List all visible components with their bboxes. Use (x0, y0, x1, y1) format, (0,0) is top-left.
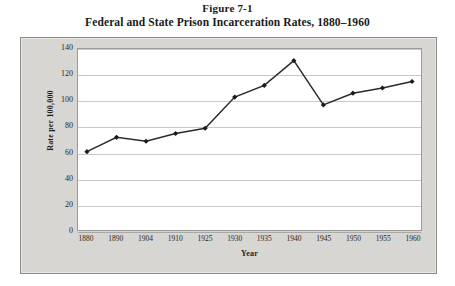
x-axis-tick-label: 1904 (138, 234, 153, 243)
x-axis-tick-label: 1880 (79, 234, 94, 243)
x-axis-tick-label: 1960 (406, 234, 421, 243)
data-point-marker (409, 79, 414, 84)
data-point-marker (350, 91, 355, 96)
y-axis-tick-label: 40 (39, 175, 73, 183)
x-axis-title: Year (77, 249, 422, 258)
x-axis-tick-label: 1890 (108, 234, 123, 243)
x-axis-tick-label: 1925 (197, 234, 212, 243)
data-point-marker (173, 131, 178, 136)
data-point-marker (380, 85, 385, 90)
data-point-marker (114, 135, 119, 140)
x-axis-tick-label: 1910 (168, 234, 183, 243)
y-axis-tick-label: 140 (39, 44, 73, 52)
x-axis-tick-label: 1955 (376, 234, 391, 243)
gridline (78, 232, 421, 233)
data-point-marker (84, 149, 89, 154)
series-line (87, 61, 412, 152)
x-axis-tick-label: 1945 (316, 234, 331, 243)
figure-caption: Federal and State Prison Incarceration R… (0, 15, 455, 29)
chart-frame: Rate per 100,000 140120100806040200 1880… (20, 37, 437, 274)
y-axis-tick-labels: 140120100806040200 (39, 48, 73, 231)
x-axis-tick-labels: 1880189019041910192519301935194019451950… (77, 234, 422, 248)
y-axis-tick-label: 100 (39, 96, 73, 104)
y-axis-tick-label: 0 (39, 227, 73, 235)
plot-area (77, 48, 422, 231)
line-series (78, 49, 421, 231)
figure-title-block: Figure 7-1 Federal and State Prison Inca… (0, 2, 455, 29)
y-axis-tick-label: 120 (39, 70, 73, 78)
x-axis-tick-label: 1930 (227, 234, 242, 243)
y-axis-tick-label: 80 (39, 122, 73, 130)
y-axis-tick-label: 60 (39, 149, 73, 157)
data-point-marker (143, 139, 148, 144)
x-axis-tick-label: 1950 (346, 234, 361, 243)
x-axis-tick-label: 1935 (257, 234, 272, 243)
figure-number: Figure 7-1 (0, 2, 455, 15)
x-axis-tick-label: 1940 (287, 234, 302, 243)
y-axis-tick-label: 20 (39, 201, 73, 209)
